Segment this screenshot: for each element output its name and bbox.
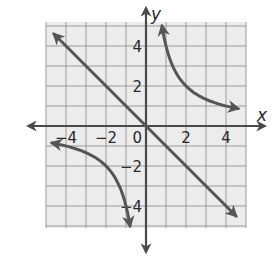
y-axis-label: y xyxy=(150,4,162,24)
x-tick-label: −2 xyxy=(95,129,117,147)
y-tick-label: 2 xyxy=(132,78,142,96)
origin-label: 0 xyxy=(132,129,142,147)
x-tick-label: 4 xyxy=(221,129,231,147)
y-tick-label: 4 xyxy=(132,38,142,56)
coordinate-plane: −4−22442−2−40 x y xyxy=(0,0,272,267)
y-tick-label: −2 xyxy=(120,158,142,176)
x-tick-label: 2 xyxy=(181,129,191,147)
x-axis-label: x xyxy=(256,105,268,125)
